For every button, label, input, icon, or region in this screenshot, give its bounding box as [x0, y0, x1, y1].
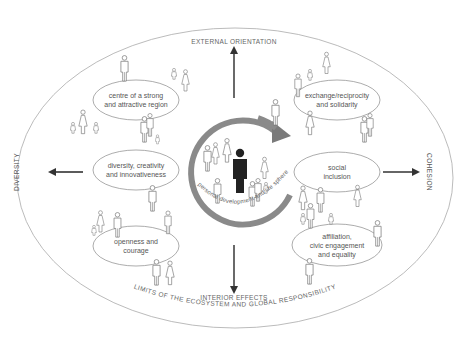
- central-person-icon: [233, 149, 247, 193]
- oval-text-social-inclusion: social inclusion: [323, 163, 350, 181]
- label-diversity: DIVERSITY: [13, 153, 20, 191]
- label-interior-effects: INTERIOR EFFECTS: [194, 294, 274, 301]
- label-external-orientation: EXTERNAL ORIENTATION: [187, 38, 281, 45]
- diagram-canvas: LIMITS OF THE ECOSYSTEM AND GLOBAL RESPO…: [0, 0, 468, 339]
- oval-text-exchange: exchange/reciprocity and solidarity: [305, 91, 369, 109]
- oval-text-openness: openness and courage: [114, 237, 158, 255]
- oval-text-affiliation: affiliation, civic engagement and equali…: [310, 232, 364, 259]
- diagram-svg: LIMITS OF THE ECOSYSTEM AND GLOBAL RESPO…: [0, 0, 468, 339]
- oval-text-diversity: diversity, creativity and innovativeness: [106, 161, 166, 179]
- label-cohesion: COHESION: [426, 153, 433, 191]
- oval-text-strong-region: centre of a strong and attractive region: [104, 91, 167, 109]
